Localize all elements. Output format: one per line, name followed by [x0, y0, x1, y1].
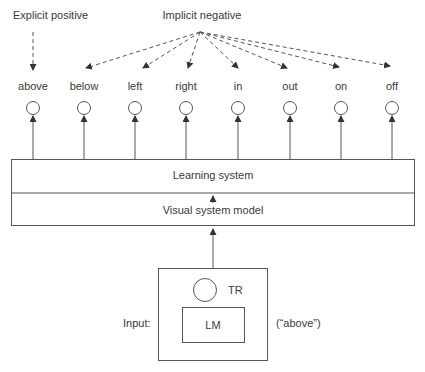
visual-system-label: Visual system model — [163, 204, 264, 216]
landmark-label: LM — [205, 319, 220, 331]
input-label: Input: — [123, 317, 151, 329]
trajector-circle — [194, 279, 217, 302]
output-label-right: right — [175, 80, 196, 92]
diagram-canvas — [0, 0, 425, 372]
output-label-left: left — [128, 80, 143, 92]
output-label-above: above — [18, 80, 48, 92]
implicit-negative-label: Implicit negative — [163, 9, 242, 21]
output-label-in: in — [234, 80, 243, 92]
implicit-arrows — [86, 32, 390, 68]
trajector-label: TR — [228, 284, 243, 296]
output-label-off: off — [386, 80, 398, 92]
explicit-positive-label: Explicit positive — [13, 9, 88, 21]
input-word: (“above”) — [276, 317, 321, 329]
output-label-on: on — [335, 80, 347, 92]
learning-system-label: Learning system — [173, 169, 254, 181]
output-label-out: out — [282, 80, 297, 92]
output-label-below: below — [70, 80, 99, 92]
